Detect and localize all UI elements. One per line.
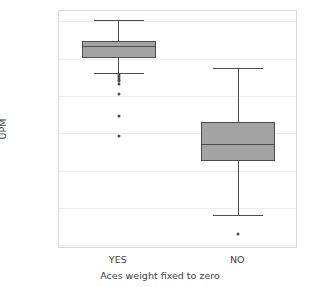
median-line: [201, 144, 275, 145]
whisker-cap-upper: [94, 20, 144, 21]
outlier-point: [117, 82, 120, 85]
outlier-point: [237, 232, 240, 235]
y-gridline: [59, 59, 296, 60]
whisker-lower: [238, 161, 239, 215]
y-axis-label: UPM: [0, 119, 8, 140]
whisker-upper: [118, 20, 119, 41]
y-gridline: [59, 245, 296, 246]
whisker-cap-lower: [213, 215, 263, 216]
whisker-cap-upper: [213, 68, 263, 69]
y-gridline: [59, 171, 296, 172]
outlier-point: [117, 115, 120, 118]
y-gridline: [59, 96, 296, 97]
boxplot-figure: UPM Aces weight fixed to zero 0.940.920.…: [0, 0, 320, 287]
x-tick-label-yes: YES: [109, 254, 127, 265]
x-tick-label-no: NO: [230, 254, 245, 265]
x-axis-label: Aces weight fixed to zero: [0, 270, 320, 281]
outlier-point: [117, 92, 120, 95]
whisker-upper: [238, 68, 239, 122]
box-no: [201, 122, 275, 162]
whisker-lower: [118, 58, 119, 73]
y-gridline: [59, 21, 296, 22]
y-gridline: [59, 208, 296, 209]
box-yes: [82, 41, 156, 58]
plot-area: [58, 10, 297, 248]
outlier-point: [117, 135, 120, 138]
median-line: [82, 46, 156, 47]
